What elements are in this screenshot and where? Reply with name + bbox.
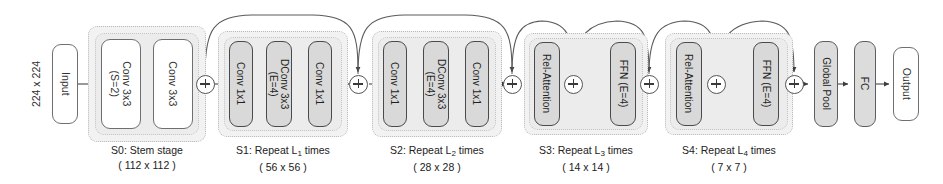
s0-conv3x3-s2-line1: Conv 3x3 xyxy=(121,61,133,106)
stage-s3-caption: S3: Repeat L3 times ( 14 x 14 ) xyxy=(511,143,661,175)
stage-s4-caption-dim: ( 7 x 7 ) xyxy=(654,160,804,175)
global-pool-block: Global Pool xyxy=(814,41,838,127)
stage-s3-caption-dim: ( 14 x 14 ) xyxy=(511,160,661,175)
global-pool-label: Global Pool xyxy=(820,58,831,111)
stage-s2-caption-dim: ( 28 x 28 ) xyxy=(362,160,512,175)
stage-s3-caption-main: S3: Repeat L xyxy=(539,144,600,156)
architecture-diagram: 224 x 224 Input Conv 3x3 (S=2) Conv 3x3 … xyxy=(0,0,943,184)
stage-s2-caption: S2: Repeat L2 times ( 28 x 28 ) xyxy=(362,143,512,175)
s2-block-conv1x1: Conv 1x1 xyxy=(383,41,407,127)
stage-s1-caption-dim: ( 56 x 56 ) xyxy=(208,160,358,175)
fc-label: FC xyxy=(859,77,870,91)
stage-s0-caption-main: S0: Stem stage xyxy=(111,144,183,156)
s3-block-rel-attention: Rel-Attention xyxy=(534,42,560,126)
sum-node-5 xyxy=(640,75,659,94)
s1-conv1x1-out-line1: Conv 1x1 xyxy=(314,62,325,105)
fc-block: FC xyxy=(854,41,876,127)
s1-dconv3x3-line2: (E=4) xyxy=(268,71,279,96)
s0-conv3x3-s2-line2: (S=2) xyxy=(109,71,121,97)
s4-rel-attention-line1: Rel-Attention xyxy=(683,54,694,113)
s2-block-conv1x1-out: Conv 1x1 xyxy=(465,41,489,127)
s2-conv1x1-out-line1: Conv 1x1 xyxy=(471,62,482,105)
stage-s1-caption-main: S1: Repeat L xyxy=(236,144,297,156)
stage-s1-caption: S1: Repeat L1 times ( 56 x 56 ) xyxy=(208,143,358,175)
s2-dconv3x3-line1: DConv 3x3 xyxy=(436,59,447,109)
s0-block-conv3x3-s2: Conv 3x3 (S=2) xyxy=(101,39,141,129)
s1-block-conv1x1: Conv 1x1 xyxy=(229,41,253,127)
input-block-label: Input xyxy=(59,72,71,96)
sum-node-3 xyxy=(503,75,522,94)
stage-s3-caption-tail: times xyxy=(605,144,633,156)
s2-conv1x1-line1: Conv 1x1 xyxy=(389,62,400,105)
stage-s0-caption: S0: Stem stage ( 112 x 112 ) xyxy=(72,143,222,173)
s4-block-ffn: FFN (E=4) xyxy=(753,42,779,126)
stage-s1-caption-tail: times xyxy=(302,144,330,156)
stage-s0-caption-dim: ( 112 x 112 ) xyxy=(72,158,222,173)
sum-node-4 xyxy=(564,75,583,94)
s0-conv3x3-line1: Conv 3x3 xyxy=(167,61,179,106)
s1-block-conv1x1-out: Conv 1x1 xyxy=(308,41,332,127)
stage-s2-caption-main: S2: Repeat L xyxy=(390,144,451,156)
s0-block-conv3x3: Conv 3x3 xyxy=(153,39,193,129)
sum-node-2 xyxy=(349,75,368,94)
s1-conv1x1-line1: Conv 1x1 xyxy=(235,62,246,105)
input-block: Input xyxy=(52,44,78,124)
stage-s4-caption-main: S4: Repeat L xyxy=(682,144,743,156)
s3-ffn-line1: FFN (E=4) xyxy=(617,60,628,108)
s1-block-dconv3x3: DConv 3x3 (E=4) xyxy=(266,41,292,127)
output-block: Output xyxy=(893,47,919,121)
s4-ffn-line1: FFN (E=4) xyxy=(760,60,771,108)
input-resolution-label: 224 x 224 xyxy=(30,54,42,114)
s3-rel-attention-line1: Rel-Attention xyxy=(541,54,552,113)
s2-dconv3x3-line2: (E=4) xyxy=(425,71,436,96)
s2-block-dconv3x3: DConv 3x3 (E=4) xyxy=(423,41,449,127)
sum-node-1 xyxy=(196,75,215,94)
s4-block-rel-attention: Rel-Attention xyxy=(676,42,702,126)
sum-node-7 xyxy=(785,75,804,94)
output-block-label: Output xyxy=(900,68,912,100)
stage-s4-caption: S4: Repeat L4 times ( 7 x 7 ) xyxy=(654,143,804,175)
s3-block-ffn: FFN (E=4) xyxy=(610,42,636,126)
stage-s2-caption-tail: times xyxy=(456,144,484,156)
sum-node-6 xyxy=(707,75,726,94)
stage-s4-caption-tail: times xyxy=(748,144,776,156)
s1-dconv3x3-line1: DConv 3x3 xyxy=(279,59,290,109)
